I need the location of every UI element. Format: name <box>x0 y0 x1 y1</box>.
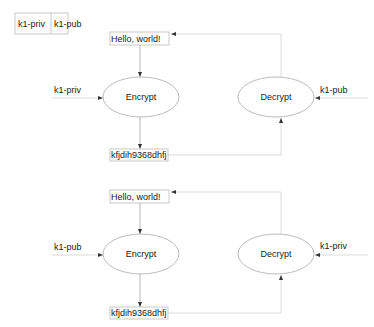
arrow-ciphertext-to-decrypt <box>168 118 281 155</box>
ciphertext-label: kfjdih9368dhfj <box>111 150 167 160</box>
encrypt-label: Encrypt <box>126 249 157 259</box>
ciphertext-label: kfjdih9368dhfj <box>111 308 167 318</box>
diagram-1: Hello, world! Encrypt k1-priv kfjdih9368… <box>52 32 368 161</box>
arrow-decrypt-to-plaintext <box>171 192 281 234</box>
key-table-cell-pub: k1-pub <box>54 19 82 29</box>
decrypt-key-label: k1-priv <box>320 241 348 251</box>
decrypt-key-label: k1-pub <box>320 85 348 95</box>
arrow-ciphertext-to-decrypt <box>168 275 281 313</box>
plaintext-label: Hello, world! <box>111 192 161 202</box>
encrypt-label: Encrypt <box>126 92 157 102</box>
arrow-decrypt-to-plaintext <box>171 34 281 77</box>
plaintext-label: Hello, world! <box>111 34 161 44</box>
encrypt-key-label: k1-priv <box>54 85 82 95</box>
encrypt-key-label: k1-pub <box>54 242 82 252</box>
encryption-diagram: k1-priv k1-pub Hello, world! Encrypt k1-… <box>0 0 374 327</box>
diagram-2: Hello, world! Encrypt k1-pub kfjdih9368d… <box>52 190 368 319</box>
decrypt-label: Decrypt <box>260 92 292 102</box>
key-table: k1-priv k1-pub <box>15 13 82 34</box>
decrypt-label: Decrypt <box>260 249 292 259</box>
key-table-cell-priv: k1-priv <box>18 19 46 29</box>
